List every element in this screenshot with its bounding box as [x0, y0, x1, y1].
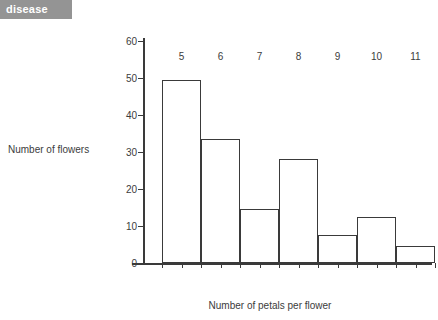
x-axis-title: Number of petals per flower: [140, 300, 400, 311]
x-tick-mark-boundary: [435, 263, 436, 268]
x-tick-label: 7: [245, 51, 275, 62]
x-tick-mark-boundary: [162, 263, 163, 268]
histogram-bar: [201, 139, 240, 263]
y-tick-mark: [138, 189, 144, 190]
x-tick-mark: [338, 263, 339, 268]
x-tick-mark-boundary: [240, 263, 241, 268]
y-tick-mark: [138, 226, 144, 227]
x-axis-line: [132, 263, 432, 265]
y-tick-label: 10: [111, 221, 137, 232]
x-tick-label: 10: [362, 51, 392, 62]
y-tick-mark: [138, 78, 144, 79]
histogram-bar: [279, 159, 318, 263]
y-tick-mark: [138, 263, 144, 264]
histogram-figure: Number of flowers 567891011 Number of pe…: [0, 0, 438, 320]
y-tick-mark: [138, 115, 144, 116]
y-tick-label: 20: [111, 184, 137, 195]
x-tick-mark-boundary: [279, 263, 280, 268]
x-tick-mark: [299, 263, 300, 268]
x-tick-label: 5: [167, 51, 197, 62]
histogram-bar: [318, 235, 357, 263]
x-tick-mark: [260, 263, 261, 268]
x-tick-label: 6: [206, 51, 236, 62]
y-tick-label: 30: [111, 147, 137, 158]
y-tick-label: 40: [111, 110, 137, 121]
plot-area: 567891011: [143, 41, 433, 263]
histogram-bar: [162, 80, 201, 263]
y-tick-label: 60: [111, 36, 137, 47]
x-tick-mark: [221, 263, 222, 268]
x-tick-mark-boundary: [396, 263, 397, 268]
histogram-bar: [357, 217, 396, 263]
y-tick-label: 50: [111, 73, 137, 84]
x-tick-label: 11: [401, 51, 431, 62]
x-tick-label: 8: [284, 51, 314, 62]
y-tick-mark: [138, 41, 144, 42]
y-tick-label: 0: [111, 258, 137, 269]
x-tick-mark-boundary: [318, 263, 319, 268]
histogram-bar: [240, 209, 279, 263]
x-tick-mark: [377, 263, 378, 268]
histogram-bar: [396, 246, 435, 263]
x-tick-label: 9: [323, 51, 353, 62]
x-tick-mark-boundary: [201, 263, 202, 268]
y-tick-mark: [138, 152, 144, 153]
x-tick-mark: [182, 263, 183, 268]
y-axis-title: Number of flowers: [8, 144, 112, 155]
x-tick-mark-boundary: [357, 263, 358, 268]
x-tick-mark: [416, 263, 417, 268]
